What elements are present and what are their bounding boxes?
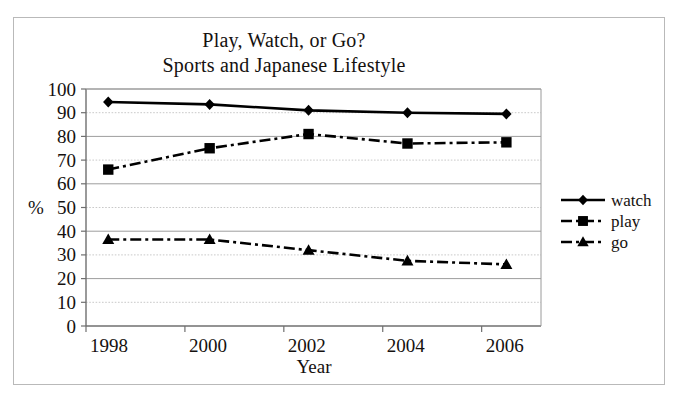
marker-square	[402, 138, 412, 148]
y-tick-label: 50	[57, 197, 76, 218]
legend-item-watch[interactable]: watch	[561, 191, 652, 210]
chart-figure: Play, Watch, or Go? Sports and Japanese …	[13, 17, 665, 385]
y-tick-label: 70	[57, 150, 76, 171]
marker-square	[303, 129, 313, 139]
marker-diamond	[303, 105, 313, 116]
marker-square	[204, 143, 214, 153]
marker-square	[501, 137, 511, 147]
y-tick-label: 90	[57, 102, 76, 123]
legend-label: play	[611, 212, 641, 231]
x-tick-label: 2004	[387, 335, 426, 356]
y-tick-label: 10	[57, 292, 76, 313]
marker-diamond	[501, 108, 511, 119]
gridlines	[86, 89, 541, 302]
y-tick-label: 20	[57, 268, 76, 289]
marker-square	[103, 164, 113, 174]
y-tick-label: 0	[67, 316, 77, 337]
series-line	[108, 134, 506, 170]
legend-item-play[interactable]: play	[561, 212, 641, 231]
chart-plot: 0102030405060708090100 19982000200220042…	[14, 18, 666, 386]
legend-label: watch	[611, 191, 652, 210]
y-tick-label: 30	[57, 244, 76, 265]
y-tick-label: 40	[57, 221, 76, 242]
series-watch	[103, 97, 512, 120]
x-tick-label: 2006	[486, 335, 524, 356]
y-tick-label: 100	[48, 79, 77, 100]
x-axis-label: Year	[296, 356, 332, 377]
x-tick-label: 1998	[90, 335, 128, 356]
x-tick-label: 2000	[189, 335, 227, 356]
data-series-layer	[102, 97, 512, 269]
marker-square	[578, 216, 588, 226]
y-axis-label: %	[28, 197, 44, 218]
marker-triangle	[500, 258, 512, 269]
y-tick-label: 60	[57, 173, 76, 194]
series-go	[102, 233, 512, 268]
marker-diamond	[204, 99, 214, 110]
legend-item-go[interactable]: go	[561, 233, 628, 252]
y-tick-label: 80	[57, 126, 76, 147]
series-play	[103, 129, 512, 175]
marker-diamond	[578, 195, 588, 205]
chart-legend: watchplaygo	[561, 191, 652, 252]
legend-label: go	[611, 233, 628, 252]
y-axis-ticks: 0102030405060708090100	[48, 79, 87, 337]
marker-diamond	[402, 107, 412, 118]
x-axis-ticks: 19982000200220042006	[86, 326, 524, 356]
marker-diamond	[103, 97, 113, 108]
x-tick-label: 2002	[288, 335, 326, 356]
